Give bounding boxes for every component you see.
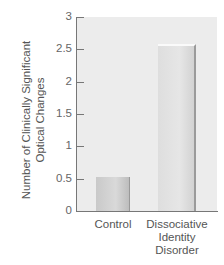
y-tick-label: 0.5 [42,172,72,184]
x-label-control: Control [88,218,138,231]
bar-control [96,177,130,211]
x-axis [76,211,218,212]
y-tick-label: 3 [42,10,72,22]
y-tick-label: 0 [42,204,72,216]
bar-dissociative-identity-disorder [158,44,196,211]
x-label-did-line2: Identity [140,231,214,244]
y-tick-label: 2.5 [42,42,72,54]
y-tick [77,179,84,180]
y-tick [77,17,84,18]
x-label-did-line1: Dissociative [140,218,214,231]
y-tick [77,82,84,83]
y-tick-label: 1 [42,139,72,151]
y-tick-label: 2 [42,75,72,87]
y-tick [77,49,84,50]
y-axis-label-line1: Number of Clinically Significant [19,40,33,200]
y-tick [77,114,84,115]
x-label-did: Dissociative Identity Disorder [140,218,214,257]
y-tick-label: 1.5 [42,107,72,119]
y-tick [77,146,84,147]
x-label-did-line3: Disorder [140,244,214,257]
